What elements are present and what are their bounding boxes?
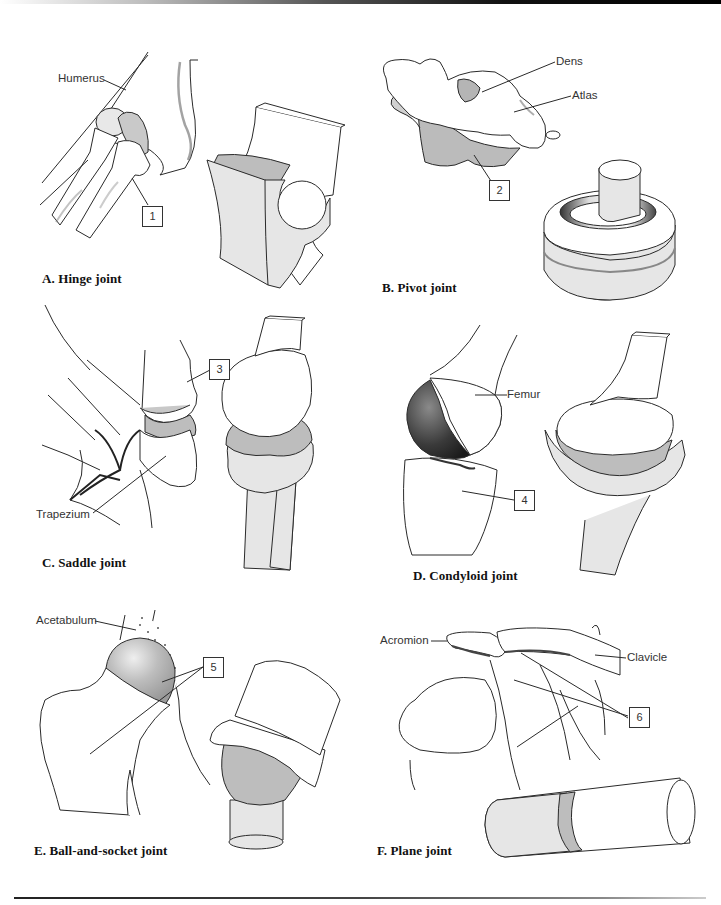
saddle-joint-illustration xyxy=(42,305,313,570)
label-acetabulum: Acetabulum xyxy=(36,614,97,626)
label-trapezium: Trapezium xyxy=(36,508,90,520)
panel-title-condyloid-joint: D. Condyloid joint xyxy=(413,568,518,584)
hinge-joint-illustration xyxy=(40,52,345,288)
panel-title-ball-and-socket-joint: E. Ball-and-socket joint xyxy=(34,843,168,859)
panel-title-plane-joint: F. Plane joint xyxy=(377,843,452,859)
panel-title-hinge-joint: A. Hinge joint xyxy=(42,271,122,287)
callout-number-2: 2 xyxy=(489,180,510,201)
label-atlas: Atlas xyxy=(572,89,598,101)
panel-title-saddle-joint: C. Saddle joint xyxy=(42,555,126,571)
pivot-joint-illustration xyxy=(383,59,675,300)
panel-title-pivot-joint: B. Pivot joint xyxy=(382,280,457,296)
bottom-divider xyxy=(14,897,706,899)
label-acromion: Acromion xyxy=(380,634,429,646)
callout-number-1: 1 xyxy=(142,206,163,227)
callout-number-5: 5 xyxy=(203,657,224,678)
label-clavicle: Clavicle xyxy=(627,651,667,663)
label-humerus: Humerus xyxy=(58,72,105,84)
label-dens: Dens xyxy=(556,55,583,67)
callout-number-4: 4 xyxy=(514,490,535,511)
callout-number-6: 6 xyxy=(629,707,650,728)
label-femur: Femur xyxy=(507,388,540,400)
joint-illustrations xyxy=(0,0,721,905)
ball-and-socket-joint-illustration xyxy=(40,610,340,849)
callout-number-3: 3 xyxy=(209,359,230,380)
condyloid-joint-illustration xyxy=(404,325,685,575)
